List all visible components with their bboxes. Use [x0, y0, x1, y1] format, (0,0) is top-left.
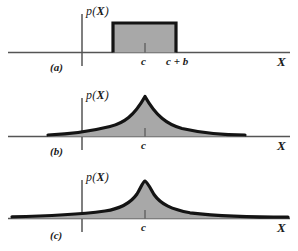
laplace-density-fill	[48, 97, 245, 137]
tick-label-c-a: c	[141, 56, 146, 67]
probability-density-figure: p(X) c c + b X (a) p(X) c X (b)	[0, 0, 298, 251]
y-axis-label-b: p(X)	[86, 89, 109, 101]
panel-label-a: (a)	[50, 62, 63, 73]
panel-b-plot	[0, 84, 298, 168]
tick-label-c-b: c	[141, 140, 146, 151]
panel-a-uniform: p(X) c c + b X (a)	[0, 0, 298, 85]
y-axis-label-a: p(X)	[86, 5, 109, 17]
tick-label-c-c: c	[141, 222, 146, 233]
panel-label-b: (b)	[50, 146, 63, 157]
x-axis-label-a: X	[277, 55, 286, 68]
panel-a-plot	[0, 0, 298, 85]
x-axis-label-c: X	[277, 221, 286, 234]
panel-b-laplace: p(X) c X (b)	[0, 84, 298, 168]
y-axis-label-c: p(X)	[86, 171, 109, 183]
panel-label-c: (c)	[50, 230, 62, 241]
panel-c-plot	[0, 166, 298, 251]
x-axis-label-b: X	[277, 139, 286, 152]
tick-label-c-plus-b-a: c + b	[166, 56, 188, 67]
panel-c-cauchy: p(X) c X (c)	[0, 166, 298, 251]
